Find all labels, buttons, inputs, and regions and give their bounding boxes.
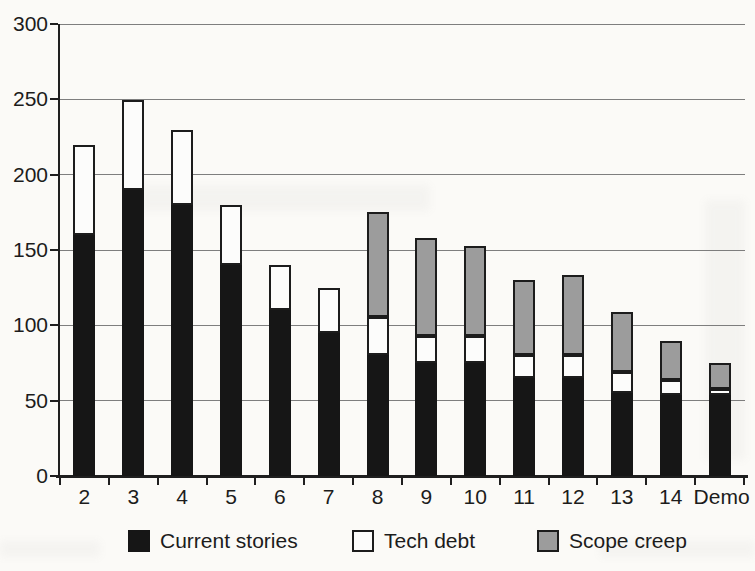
bar-segment-current-stories-13 bbox=[611, 393, 633, 476]
x-tick-label-3: 3 bbox=[107, 486, 159, 508]
y-tick-label-100: 100 bbox=[0, 314, 48, 336]
x-tick-label-11: 11 bbox=[498, 486, 550, 508]
bar-group-11 bbox=[513, 280, 535, 476]
x-axis-tick bbox=[401, 478, 403, 485]
bar-segment-tech-debt-12 bbox=[562, 355, 584, 378]
bar-group-10 bbox=[464, 246, 486, 476]
bar-segment-current-stories-3 bbox=[122, 190, 144, 476]
y-tick-label-250: 250 bbox=[0, 88, 48, 110]
bar-segment-scope-creep-14 bbox=[660, 341, 682, 380]
bar-segment-scope-creep-11 bbox=[513, 280, 535, 355]
legend-label: Tech debt bbox=[384, 530, 475, 552]
x-axis-tick bbox=[303, 478, 305, 485]
x-axis-tick bbox=[548, 478, 550, 485]
x-axis-tick bbox=[254, 478, 256, 485]
x-tick-label-Demo: Demo bbox=[694, 486, 746, 508]
bar-segment-current-stories-Demo bbox=[709, 395, 731, 476]
bar-segment-scope-creep-Demo bbox=[709, 363, 731, 389]
x-tick-label-12: 12 bbox=[547, 486, 599, 508]
x-tick-label-10: 10 bbox=[449, 486, 501, 508]
bar-segment-current-stories-7 bbox=[318, 333, 340, 476]
bar-group-8 bbox=[367, 212, 389, 476]
x-axis-tick bbox=[499, 478, 501, 485]
x-axis-tick bbox=[645, 478, 647, 485]
x-axis-tick bbox=[596, 478, 598, 485]
y-axis-tick bbox=[50, 174, 58, 176]
x-axis-tick bbox=[157, 478, 159, 485]
x-axis-tick bbox=[743, 478, 745, 485]
y-tick-label-0: 0 bbox=[0, 465, 48, 487]
x-tick-label-9: 9 bbox=[400, 486, 452, 508]
gridline-200 bbox=[60, 174, 745, 175]
gridline-150 bbox=[60, 250, 745, 251]
bar-segment-tech-debt-11 bbox=[513, 355, 535, 378]
x-tick-label-14: 14 bbox=[645, 486, 697, 508]
legend-swatch-current-stories-icon bbox=[128, 530, 150, 552]
scan-smudge bbox=[0, 541, 100, 557]
y-axis-tick bbox=[50, 249, 58, 251]
gridline-50 bbox=[60, 400, 745, 401]
x-axis-tick bbox=[694, 478, 696, 485]
bar-group-Demo bbox=[709, 363, 731, 476]
bar-segment-tech-debt-7 bbox=[318, 288, 340, 333]
bar-group-9 bbox=[415, 238, 437, 476]
bar-group-6 bbox=[269, 265, 291, 476]
bar-segment-scope-creep-9 bbox=[415, 238, 437, 336]
bar-segment-current-stories-5 bbox=[220, 265, 242, 476]
bar-segment-scope-creep-8 bbox=[367, 212, 389, 317]
x-tick-label-8: 8 bbox=[352, 486, 404, 508]
y-axis bbox=[58, 24, 60, 477]
gridline-250 bbox=[60, 99, 745, 100]
legend-item-scope-creep: Scope creep bbox=[537, 530, 687, 552]
x-tick-label-5: 5 bbox=[205, 486, 257, 508]
bar-segment-scope-creep-10 bbox=[464, 246, 486, 336]
bar-segment-tech-debt-4 bbox=[171, 130, 193, 205]
bar-group-5 bbox=[220, 205, 242, 476]
bar-segment-tech-debt-2 bbox=[73, 145, 95, 235]
bar-segment-current-stories-8 bbox=[367, 355, 389, 476]
x-tick-label-7: 7 bbox=[303, 486, 355, 508]
legend-swatch-tech-debt-icon bbox=[352, 530, 374, 552]
legend-item-current-stories: Current stories bbox=[128, 530, 298, 552]
x-tick-label-2: 2 bbox=[58, 486, 110, 508]
bar-group-14 bbox=[660, 341, 682, 476]
bar-segment-tech-debt-5 bbox=[220, 205, 242, 265]
plot-area bbox=[60, 24, 744, 476]
x-tick-label-4: 4 bbox=[156, 486, 208, 508]
y-axis-tick bbox=[50, 324, 58, 326]
y-tick-label-200: 200 bbox=[0, 164, 48, 186]
y-axis-tick bbox=[50, 23, 58, 25]
bar-group-13 bbox=[611, 312, 633, 476]
gridline-100 bbox=[60, 325, 745, 326]
y-axis-tick bbox=[50, 400, 58, 402]
x-tick-label-6: 6 bbox=[254, 486, 306, 508]
bar-segment-tech-debt-9 bbox=[415, 336, 437, 363]
bar-segment-current-stories-4 bbox=[171, 205, 193, 476]
bar-segment-current-stories-10 bbox=[464, 363, 486, 476]
bar-segment-tech-debt-14 bbox=[660, 380, 682, 395]
bar-segment-current-stories-12 bbox=[562, 378, 584, 476]
bar-segment-current-stories-11 bbox=[513, 378, 535, 476]
bar-segment-current-stories-6 bbox=[269, 310, 291, 476]
legend-item-tech-debt: Tech debt bbox=[352, 530, 475, 552]
bar-segment-tech-debt-8 bbox=[367, 317, 389, 355]
bar-segment-current-stories-9 bbox=[415, 363, 437, 476]
y-axis-tick bbox=[50, 98, 58, 100]
legend-swatch-scope-creep-icon bbox=[537, 530, 559, 552]
bar-segment-tech-debt-13 bbox=[611, 372, 633, 393]
bar-group-12 bbox=[562, 275, 584, 476]
y-tick-label-300: 300 bbox=[0, 13, 48, 35]
x-tick-label-13: 13 bbox=[596, 486, 648, 508]
x-axis-tick bbox=[108, 478, 110, 485]
bar-segment-tech-debt-10 bbox=[464, 336, 486, 363]
bar-group-7 bbox=[318, 288, 340, 476]
bar-group-2 bbox=[73, 145, 95, 476]
x-axis-tick bbox=[59, 478, 61, 485]
bar-group-3 bbox=[122, 100, 144, 476]
x-axis-tick bbox=[352, 478, 354, 485]
x-axis-tick bbox=[450, 478, 452, 485]
y-tick-label-50: 50 bbox=[0, 390, 48, 412]
y-axis-tick bbox=[50, 475, 58, 477]
y-tick-label-150: 150 bbox=[0, 239, 48, 261]
bar-segment-scope-creep-12 bbox=[562, 275, 584, 355]
